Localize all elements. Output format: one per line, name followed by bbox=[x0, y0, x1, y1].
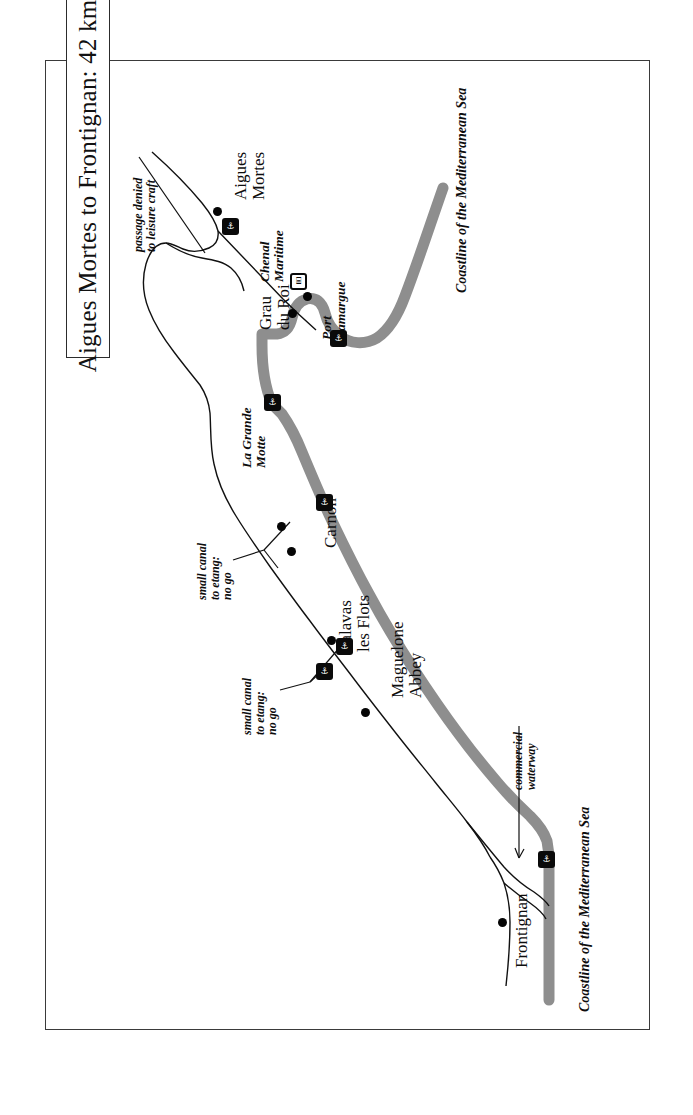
label-coastline-south-text: Coastline of the Mediterranean Sea bbox=[578, 807, 593, 1012]
label-la-grande-motte-line2: Motte bbox=[254, 408, 268, 468]
label-chenal-maritime: Chenal Maritime bbox=[258, 230, 287, 282]
annotation-commercial-line2: waterway bbox=[525, 732, 538, 790]
annotation-canal-north-line3: no go bbox=[221, 543, 234, 600]
town-dot-maguelone bbox=[361, 708, 370, 717]
label-coastline-mediterranean-south: Coastline of the Mediterranean Sea bbox=[578, 807, 593, 1012]
town-dot-grau-du-roi-b bbox=[303, 292, 312, 301]
marina-icon: ⚓ bbox=[336, 638, 353, 655]
label-maguelone-line2: Abbey bbox=[407, 622, 425, 698]
marina-icon: ⚓ bbox=[330, 330, 347, 347]
label-chenal-maritime-line1: Chenal bbox=[258, 230, 272, 282]
annotation-passage-denied-line2: to leisure craft bbox=[145, 178, 158, 252]
annotation-small-canal-north: small canal to etang: no go bbox=[196, 543, 234, 600]
marina-icon: ⚓ bbox=[538, 851, 555, 868]
town-dot-grau-du-roi-a bbox=[288, 309, 297, 318]
marker-frontignan[interactable]: ⚓ bbox=[538, 851, 555, 868]
town-dot-frontignan bbox=[498, 918, 507, 927]
marker-canal-south[interactable]: ⚓ bbox=[316, 663, 333, 680]
town-dot-palavas bbox=[327, 636, 336, 645]
marker-palavas[interactable]: ⚓ bbox=[336, 638, 353, 655]
map-title-cartouche: Aigues Mortes to Frontignan: 42 km ... n… bbox=[66, 0, 110, 358]
marker-carnon[interactable]: ⚓ bbox=[316, 494, 333, 511]
marker-port-camargue[interactable]: ⚓ bbox=[330, 330, 347, 347]
marker-aigues-mortes[interactable]: ⚓ bbox=[222, 218, 239, 235]
town-dot-carnon-area-a bbox=[277, 522, 286, 531]
label-grau-du-roi: Grau du Roi bbox=[257, 284, 293, 330]
label-aigues-mortes-line1: Aigues bbox=[232, 152, 250, 200]
town-dot-aigues-mortes bbox=[213, 207, 222, 216]
annotation-commercial-waterway: commercial waterway bbox=[512, 732, 537, 790]
annotation-passage-denied-line1: passage denied bbox=[132, 178, 145, 252]
label-grau-du-roi-line2: du Roi bbox=[275, 284, 293, 330]
annotation-canal-north-line1: small canal bbox=[196, 543, 209, 600]
annotation-canal-south-line3: no go bbox=[266, 678, 279, 735]
label-frontignan: Frontignan bbox=[513, 893, 531, 968]
marker-grau-du-roi[interactable]: ⌸ bbox=[290, 273, 307, 290]
marina-icon: ⚓ bbox=[316, 663, 333, 680]
label-la-grande-motte-line1: La Grande bbox=[240, 408, 254, 468]
label-coastline-north-text: Coastline of the Mediterranean Sea bbox=[455, 88, 470, 293]
lock-icon: ⌸ bbox=[292, 275, 305, 288]
marker-la-grande-motte[interactable]: ⚓ bbox=[264, 394, 281, 411]
label-la-grande-motte: La Grande Motte bbox=[240, 408, 269, 468]
label-palavas-line2: les Flots bbox=[355, 595, 373, 652]
town-dot-carnon-area-b bbox=[287, 547, 296, 556]
page-title: Aigues Mortes to Frontignan: 42 km ... n… bbox=[74, 0, 102, 372]
marina-icon: ⚓ bbox=[316, 494, 333, 511]
annotation-commercial-line1: commercial bbox=[512, 732, 525, 790]
label-aigues-mortes: Aigues Mortes bbox=[232, 152, 268, 200]
label-frontignan-text: Frontignan bbox=[513, 893, 531, 968]
label-maguelone-abbey: Maguelone Abbey bbox=[389, 622, 425, 698]
label-coastline-mediterranean-north: Coastline of the Mediterranean Sea bbox=[455, 88, 470, 293]
label-maguelone-line1: Maguelone bbox=[389, 622, 407, 698]
annotation-passage-denied: passage denied to leisure craft bbox=[132, 178, 157, 252]
annotation-canal-south-line1: small canal bbox=[241, 678, 254, 735]
marina-icon: ⚓ bbox=[222, 218, 239, 235]
label-grau-du-roi-line1: Grau bbox=[257, 284, 275, 330]
marina-icon: ⚓ bbox=[264, 394, 281, 411]
label-aigues-mortes-line2: Mortes bbox=[250, 152, 268, 200]
annotation-small-canal-south: small canal to etang: no go bbox=[241, 678, 279, 735]
label-chenal-maritime-line2: Maritime bbox=[272, 230, 286, 282]
